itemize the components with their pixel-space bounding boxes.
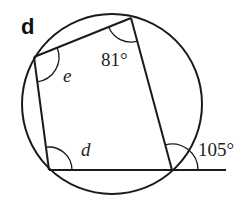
angle-label-105: 105° <box>198 139 234 160</box>
angle-arc-e <box>37 48 59 82</box>
angle-label-d: d <box>81 139 91 160</box>
panel-label: d <box>21 14 34 39</box>
angle-arc-d <box>46 147 72 170</box>
angle-label-81: 81° <box>101 49 128 70</box>
cyclic-quadrilateral-diagram: d e 81° d 105° <box>0 0 248 199</box>
angle-label-e: e <box>63 65 71 86</box>
